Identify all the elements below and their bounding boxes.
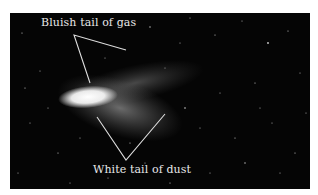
gas-tail-label: Bluish tail of gas	[41, 16, 136, 29]
comet-photograph: Bluish tail of gas White tail of dust	[10, 13, 310, 189]
dust-tail-label: White tail of dust	[93, 163, 191, 176]
